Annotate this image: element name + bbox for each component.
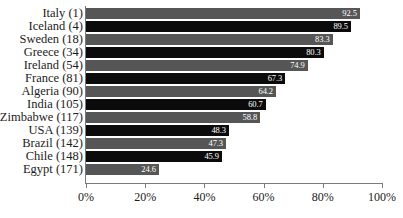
bar-value-label: 48.3	[211, 125, 225, 136]
bar-track: 92.5	[86, 8, 382, 19]
bar-track: 45.9	[86, 151, 382, 162]
bar-track: 58.8	[86, 112, 382, 123]
x-axis-tick-label: 80%	[312, 190, 334, 205]
bar-value-label: 58.8	[243, 112, 257, 123]
bar-value-label: 47.3	[209, 138, 223, 149]
bar-track: 24.6	[86, 164, 382, 175]
x-axis-tick	[264, 184, 265, 188]
bar-track: 47.3	[86, 138, 382, 149]
bar-value-label: 83.3	[315, 34, 329, 45]
chart-row: Egypt (171)24.6	[0, 163, 403, 176]
x-axis-tick-label: 20%	[134, 190, 156, 205]
bar-value-label: 64.2	[259, 86, 273, 97]
bar[interactable]: 80.3	[86, 47, 324, 58]
bar-value-label: 24.6	[141, 164, 155, 175]
x-axis-tick	[323, 184, 324, 188]
bar-track: 64.2	[86, 86, 382, 97]
y-axis-line	[85, 6, 86, 183]
bar[interactable]: 47.3	[86, 138, 226, 149]
x-axis-tick-label: 60%	[253, 190, 275, 205]
bar-track: 80.3	[86, 47, 382, 58]
bar-value-label: 60.7	[248, 99, 262, 110]
bar[interactable]: 58.8	[86, 112, 260, 123]
bar-chart: Italy (1)92.5Iceland (4)89.5Sweden (18)8…	[0, 0, 403, 218]
bar-track: 89.5	[86, 21, 382, 32]
x-axis-tick	[204, 184, 205, 188]
bar[interactable]: 45.9	[86, 151, 222, 162]
bar-track: 67.3	[86, 73, 382, 84]
x-axis-tick-label: 100%	[368, 190, 396, 205]
bar[interactable]: 74.9	[86, 60, 308, 71]
bar[interactable]: 67.3	[86, 73, 285, 84]
bar[interactable]: 24.6	[86, 164, 159, 175]
bar[interactable]: 83.3	[86, 34, 333, 45]
category-label: Egypt (171)	[23, 163, 83, 176]
chart-plot-area: Italy (1)92.5Iceland (4)89.5Sweden (18)8…	[0, 7, 403, 176]
bar[interactable]: 89.5	[86, 21, 351, 32]
x-axis-tick	[382, 184, 383, 188]
bar[interactable]: 48.3	[86, 125, 229, 136]
x-axis-tick-label: 40%	[193, 190, 215, 205]
bar-value-label: 67.3	[268, 73, 282, 84]
bar-value-label: 74.9	[290, 60, 304, 71]
bar-track: 74.9	[86, 60, 382, 71]
bar-track: 48.3	[86, 125, 382, 136]
x-axis-tick-label: 0%	[78, 190, 94, 205]
bar-value-label: 45.9	[204, 151, 218, 162]
bar-value-label: 92.5	[342, 8, 356, 19]
bar[interactable]: 64.2	[86, 86, 276, 97]
x-axis-line	[85, 183, 383, 184]
bar-value-label: 80.3	[306, 47, 320, 58]
bar-value-label: 89.5	[333, 21, 347, 32]
bar-track: 60.7	[86, 99, 382, 110]
bar[interactable]: 60.7	[86, 99, 266, 110]
x-axis-tick	[145, 184, 146, 188]
bar[interactable]: 92.5	[86, 8, 360, 19]
bar-track: 83.3	[86, 34, 382, 45]
x-axis-tick	[86, 184, 87, 188]
